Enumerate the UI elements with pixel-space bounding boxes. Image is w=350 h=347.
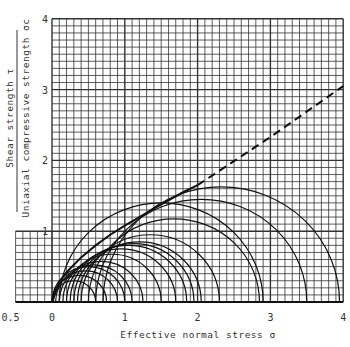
y-axis-label-numerator: Shear strength τ	[4, 68, 15, 168]
x-tick-label: 3	[267, 312, 273, 323]
x-tick-label: -0.5	[0, 312, 20, 323]
y-tick-label: 2	[42, 155, 48, 166]
mohr-circle	[96, 199, 307, 302]
mohr-circle	[103, 187, 340, 302]
y-axis-label: Shear strength τ Uniaxial compressive st…	[4, 18, 31, 217]
x-tick-label: 0	[49, 312, 55, 323]
y-tick-label: 1	[42, 226, 48, 237]
mohr-circles	[52, 187, 340, 302]
y-axis-ticks: 1234	[42, 14, 48, 237]
y-axis-label-denominator: Uniaxial compressive strength σc	[20, 18, 31, 217]
grid	[16, 19, 344, 302]
x-axis-ticks: -0.501234	[0, 312, 346, 323]
x-axis-label: Effective normal stress σ	[120, 329, 276, 340]
x-tick-label: 2	[195, 312, 201, 323]
mohr-envelope-chart: -0.501234 1234 Effective normal stress σ…	[0, 0, 350, 347]
x-tick-label: 4	[340, 312, 346, 323]
x-tick-label: 1	[122, 312, 128, 323]
y-tick-label: 3	[42, 85, 48, 96]
y-tick-label: 4	[42, 14, 48, 25]
